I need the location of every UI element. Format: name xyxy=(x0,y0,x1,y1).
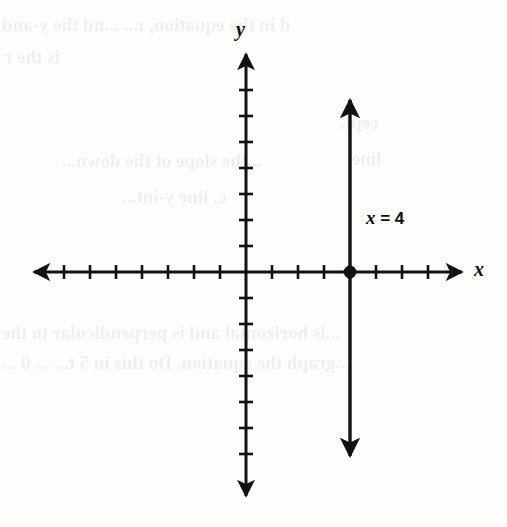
coordinate-plane-figure: d in the equation, r... ...nd the y-and … xyxy=(0,0,507,527)
x-intercept-point xyxy=(344,266,357,279)
plot-canvas xyxy=(0,0,507,527)
x-axis xyxy=(34,265,462,279)
x-axis-label: x xyxy=(474,258,484,281)
equation-remainder: = 4 xyxy=(376,209,405,228)
y-axis xyxy=(239,54,253,496)
line-equation-annotation: x = 4 xyxy=(366,207,404,229)
y-axis-label: y xyxy=(236,18,245,41)
equation-variable: x xyxy=(366,207,376,228)
